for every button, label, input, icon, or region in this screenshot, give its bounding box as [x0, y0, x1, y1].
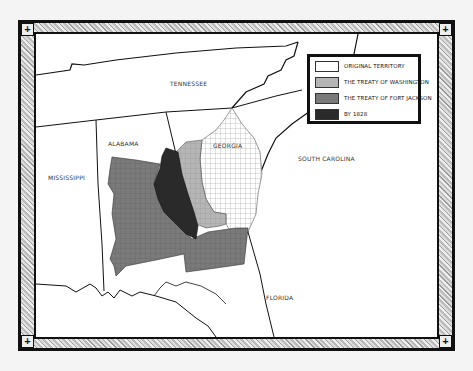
legend-label-fort-jackson: THE TREATY OF FORT JACKSON: [344, 95, 432, 101]
gulf-coast: [36, 284, 216, 337]
ms-al-border: [96, 120, 104, 291]
corner-ornament-bottom-right: +: [439, 335, 452, 348]
tennessee-north-border: [36, 42, 298, 75]
nc-border: [232, 42, 298, 108]
legend-swatch-washington: [315, 77, 339, 88]
corner-ornament-top-left: +: [21, 23, 34, 36]
label-georgia: GEORGIA: [213, 142, 242, 149]
legend-item-washington: THE TREATY OF WASHINGTON: [310, 75, 418, 89]
corner-ornament-bottom-left: +: [21, 335, 34, 348]
map-frame: + + + +: [18, 20, 455, 351]
map-legend: ORIGINAL TERRITORY THE TREATY OF WASHING…: [307, 54, 421, 124]
map-canvas: ORIGINAL TERRITORY THE TREATY OF WASHING…: [36, 34, 437, 337]
label-alabama: ALABAMA: [108, 140, 139, 147]
legend-item-fort-jackson: THE TREATY OF FORT JACKSON: [310, 91, 418, 105]
legend-swatch-fort-jackson: [315, 93, 339, 104]
legend-label-by-1828: BY 1828: [344, 111, 367, 117]
nc-sc-border: [232, 90, 302, 108]
tennessee-south-border: [36, 108, 232, 127]
map-inner-border: ORIGINAL TERRITORY THE TREATY OF WASHING…: [34, 32, 439, 339]
florida-coast-east: [248, 232, 274, 337]
legend-item-original: ORIGINAL TERRITORY: [310, 59, 418, 73]
corner-ornament-top-right: +: [439, 23, 452, 36]
legend-label-washington: THE TREATY OF WASHINGTON: [344, 79, 429, 85]
legend-item-by-1828: BY 1828: [310, 107, 418, 121]
legend-label-original: ORIGINAL TERRITORY: [344, 63, 405, 69]
label-mississippi: MISSISSIPPI: [48, 174, 85, 181]
legend-swatch-original: [315, 61, 339, 72]
label-tennessee: TENNESSEE: [170, 80, 207, 87]
label-south-carolina: SOUTH CAROLINA: [298, 155, 355, 162]
legend-swatch-by-1828: [315, 109, 339, 120]
label-florida: FLORIDA: [266, 294, 293, 301]
florida-panhandle-coast: [154, 282, 226, 304]
